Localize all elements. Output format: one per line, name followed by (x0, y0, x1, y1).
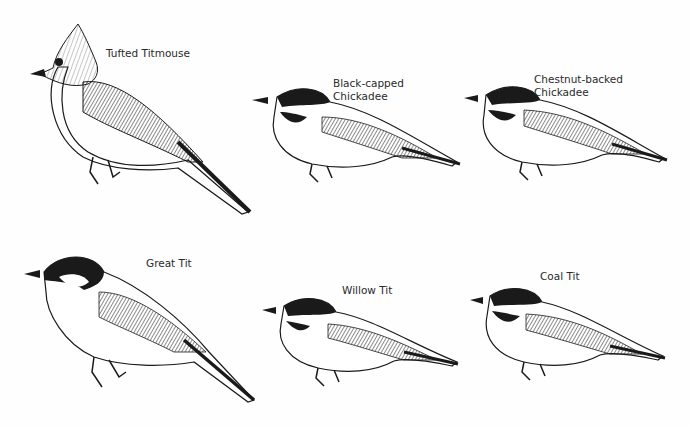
label-line: Chickadee (534, 86, 623, 99)
great-tit-illustration (24, 252, 256, 404)
black-capped-chickadee-label: Black-capped Chickadee (333, 77, 404, 103)
tufted-titmouse-label: Tufted Titmouse (106, 47, 190, 60)
label-line: Tufted Titmouse (106, 47, 190, 60)
coal-tit-label: Coal Tit (540, 270, 580, 283)
label-line: Chickadee (333, 90, 404, 103)
label-line: Coal Tit (540, 270, 580, 283)
bird-illustration-plate: Tufted Titmouse Black-capped Chickadee (0, 0, 690, 426)
label-line: Willow Tit (342, 284, 392, 297)
willow-tit-label: Willow Tit (342, 284, 392, 297)
label-line: Great Tit (146, 257, 192, 270)
coal-tit-illustration (470, 284, 666, 384)
willow-tit-illustration (262, 294, 460, 390)
great-tit-label: Great Tit (146, 257, 192, 270)
label-line: Chestnut-backed (534, 73, 623, 86)
label-line: Black-capped (333, 77, 404, 90)
chestnut-backed-chickadee-label: Chestnut-backed Chickadee (534, 73, 623, 99)
